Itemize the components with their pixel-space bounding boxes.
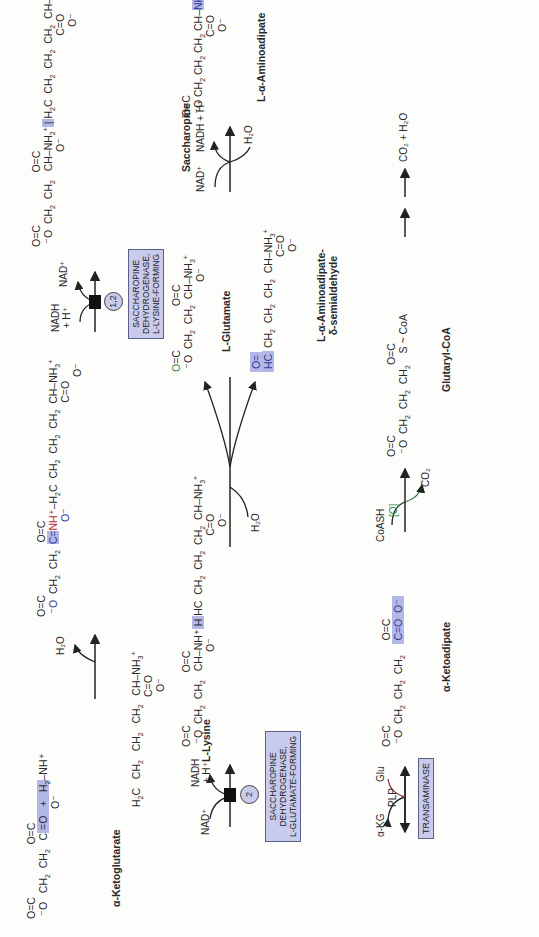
saccharopine-structure: O=C O=C ⁻O CH2 CH2 CH–NH2+ | H2C CH2 CH2… — [30, 0, 78, 247]
alpha-kg-in: α-KG — [375, 813, 386, 837]
saccharopine-structure-copy: O=C O=C ⁻O CH2 CH2 CH–NH⁺ H HC CH2 CH2 C… — [180, 476, 228, 747]
alpha-ketoadipate-structure: O=C O=C ⁻O CH2 CH2 CH2 C=O O⁻ — [380, 596, 404, 747]
nadh-in-step2: NADH+ H⁺ — [50, 304, 72, 332]
water-in-step4: H₂O — [243, 125, 254, 144]
schiff-base-intermediate: O=C O=C ⁻O CH2 CH2 C=NH⁺–H2C CH2 CH2 CH2… — [35, 360, 83, 617]
alpha-ketoglutarate-structure: O=C O=C ⁻O CH2 CH2 C =O + H2–NH⁺ O⁻ — [25, 753, 61, 919]
enzyme-saccharopine-dh-lysine-forming: SACCHAROPINEDEHYDROGENASE,L-LYSINE-FORMI… — [128, 249, 164, 339]
glutaryl-coa-label: Glutaryl-CoA — [440, 327, 452, 392]
enzyme-number-badge-1-2: 1,2 — [104, 292, 123, 311]
enzyme-number-badge-2: 2 — [240, 785, 259, 804]
co2-out: CO₂ — [420, 468, 431, 487]
coash-in: CoASH — [375, 509, 386, 542]
l-lysine-structure: H2C CH2 CH2 CH2 CH–NH3+ C=O O⁻ — [130, 652, 166, 808]
plp-cofactor: PLP — [387, 788, 398, 807]
water-in-step3: H₂O — [250, 513, 261, 532]
glu-out: Glu — [375, 766, 386, 782]
final-products: CO₂ + H₂O — [398, 113, 409, 162]
oxidation-symbol: [O] — [388, 504, 399, 517]
alpha-ketoadipate-label: α-Ketoadipate — [440, 622, 452, 692]
enzyme-saccharopine-dh-glutamate-forming: SACCHAROPINEDEHYDROGENASE,L-GLUTAMATE-FO… — [265, 731, 301, 842]
semialdehyde-structure: O= HC CH2 CH2 CH2 CH–NH3+ C=O O⁻ — [250, 229, 298, 372]
enzyme-transaminase: TRANSAMINASE — [418, 758, 434, 839]
nad-in-step3: NAD⁺ — [200, 809, 211, 835]
glutaryl-coa-structure: O=C O=C ⁻O CH2 CH2 CH2 S ~ CoA — [385, 314, 409, 457]
water-out-step1: H₂O — [55, 636, 66, 655]
l-glutamate-structure: O=C O=C ⁻O CH2 CH2 CH–NH3+ O⁻ — [170, 255, 206, 372]
l-aminoadipate-label: L-α-Aminoadipate — [255, 13, 267, 102]
l-aminoadipate-structure: O=C ⁻O CH2 CH2 CH2 CH–NH3+ C=O O⁻ — [180, 0, 228, 117]
pathway-diagram: O=C O=C ⁻O CH2 CH2 C =O + H2–NH⁺ O⁻ α-Ke… — [0, 0, 539, 937]
nadh-out-step3: NADH+ H⁺ — [190, 759, 212, 787]
l-glutamate-label: L-Glutamate — [220, 291, 232, 352]
alpha-ketoglutarate-label: α-Ketoglutarate — [110, 829, 122, 907]
semialdehyde-label: L-α-Aminoadipate-δ-semialdehyde — [315, 249, 339, 342]
nad-in-step4: NAD⁺ — [195, 166, 206, 192]
nad-out-step2: NAD⁺ — [58, 261, 69, 287]
